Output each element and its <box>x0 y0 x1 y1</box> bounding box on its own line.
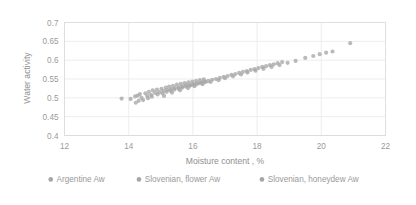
data-point <box>120 96 124 100</box>
data-point <box>146 96 150 100</box>
data-point <box>277 63 281 67</box>
data-point <box>150 95 154 99</box>
data-point <box>253 69 257 73</box>
data-point <box>192 84 196 88</box>
data-point <box>261 67 265 71</box>
data-point <box>200 82 204 86</box>
legend-item-2[interactable]: Slovenian, honeydew Aw <box>260 175 359 184</box>
x-axis-tick-label: 22 <box>381 142 391 151</box>
legend-item-label: Slovenian, flower Aw <box>145 175 220 184</box>
data-point <box>155 92 159 96</box>
data-point <box>170 90 174 94</box>
data-point <box>129 97 133 101</box>
scatter-chart-figure: 0.40.450.50.550.60.650.7 121416182022 Wa… <box>0 0 416 205</box>
chart-canvas: 0.40.450.50.550.60.650.7 121416182022 Wa… <box>0 0 416 205</box>
data-point <box>208 80 212 84</box>
y-axis-tick-labels: 0.40.450.50.550.60.650.7 <box>43 19 59 141</box>
data-point <box>164 90 168 94</box>
y-axis-tick-label: 0.5 <box>47 94 59 103</box>
legend-marker-icon <box>137 177 142 182</box>
data-points-layer <box>120 41 353 105</box>
data-point <box>137 99 141 103</box>
y-axis-tick-label: 0.65 <box>43 37 59 46</box>
y-axis-tick-label: 0.45 <box>43 113 59 122</box>
x-axis-tick-label: 20 <box>317 142 327 151</box>
data-point <box>303 56 307 60</box>
data-point <box>285 61 289 65</box>
data-point <box>216 78 220 82</box>
data-point <box>269 65 273 69</box>
data-point <box>138 92 142 96</box>
data-point <box>239 72 243 76</box>
data-point <box>245 71 249 75</box>
legend-marker-icon <box>48 177 53 182</box>
x-axis-tick-label: 14 <box>124 142 134 151</box>
legend-item-1[interactable]: Slovenian, flower Aw <box>137 175 221 184</box>
data-point <box>294 59 298 63</box>
data-point <box>231 74 235 78</box>
data-point <box>223 76 227 80</box>
y-axis-tick-label: 0.4 <box>47 132 59 141</box>
data-point <box>330 49 334 53</box>
legend-item-label: Slovenian, honeydew Aw <box>268 175 359 184</box>
x-axis-tick-labels: 121416182022 <box>60 142 391 151</box>
x-axis-tick-label: 18 <box>253 142 263 151</box>
y-axis-tick-label: 0.7 <box>47 19 59 28</box>
data-point <box>162 94 166 98</box>
x-axis-title: Moisture content , % <box>186 156 265 166</box>
y-axis-tick-label: 0.55 <box>43 75 59 84</box>
data-point <box>311 54 315 58</box>
legend-item-0[interactable]: Argentine Aw <box>48 175 104 184</box>
chart-legend: Argentine AwSlovenian, flower AwSlovenia… <box>48 175 358 184</box>
data-series-0 <box>120 77 208 105</box>
data-point <box>318 52 322 56</box>
data-point <box>141 98 145 102</box>
data-point <box>348 41 352 45</box>
x-axis-tick-label: 12 <box>60 142 70 151</box>
data-point <box>324 51 328 55</box>
data-point <box>186 86 190 90</box>
legend-item-label: Argentine Aw <box>57 175 105 184</box>
legend-marker-icon <box>260 177 265 182</box>
data-point <box>178 88 182 92</box>
y-axis-title: Water activity <box>22 52 32 104</box>
x-axis-tick-label: 16 <box>188 142 198 151</box>
y-axis-tick-label: 0.6 <box>47 56 59 65</box>
